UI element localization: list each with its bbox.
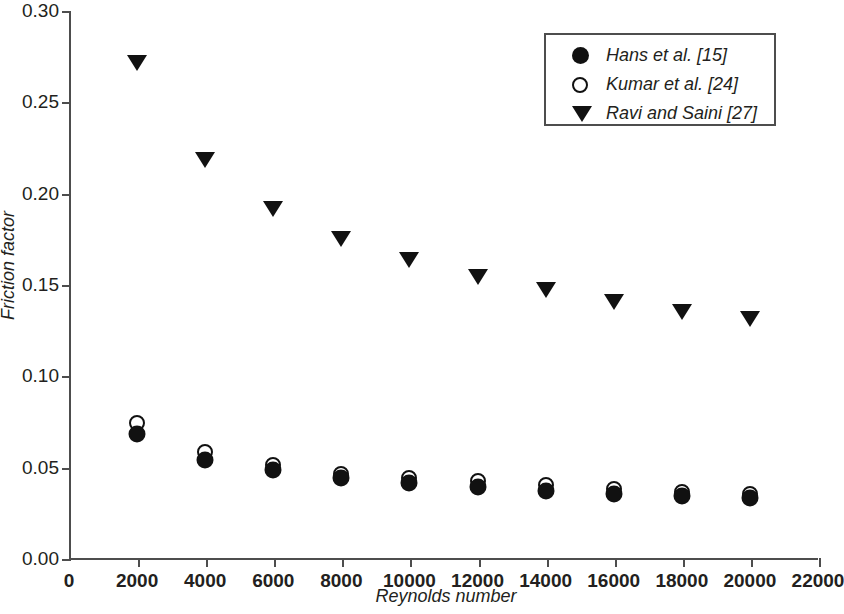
- y-axis-tick: [62, 11, 71, 13]
- x-axis-tick-label: 22000: [792, 570, 844, 592]
- legend-item: Ravi and Saini [27]: [546, 99, 774, 128]
- legend-item-label: Hans et al. [15]: [606, 45, 727, 66]
- x-axis-tick-label: 4000: [184, 570, 226, 592]
- x-axis-tick: [206, 558, 208, 567]
- data-point-marker: [127, 55, 147, 71]
- x-axis-tick-label: 10000: [383, 570, 436, 592]
- data-point-marker: [401, 475, 418, 492]
- y-axis-title: Friction factor: [0, 126, 19, 406]
- data-point-marker: [469, 478, 486, 495]
- x-axis-tick-label: 0: [64, 570, 75, 592]
- data-point-marker: [265, 462, 282, 479]
- x-axis-tick-label: 16000: [587, 570, 640, 592]
- y-axis-tick-label: 0.00: [0, 548, 59, 570]
- y-axis-tick-label: 0.20: [0, 183, 59, 205]
- data-point-marker: [604, 294, 624, 310]
- y-axis-tick: [62, 468, 71, 470]
- legend: Hans et al. [15]Kumar et al. [24]Ravi an…: [544, 33, 776, 126]
- y-axis-tick-label: 0.30: [0, 0, 59, 22]
- data-point-marker: [129, 425, 146, 442]
- x-axis-tick: [274, 558, 276, 567]
- data-point-marker: [197, 451, 214, 468]
- y-axis-tick: [62, 285, 71, 287]
- legend-item: Hans et al. [15]: [546, 41, 774, 70]
- data-point-marker: [536, 282, 556, 298]
- x-axis-tick: [751, 558, 753, 567]
- data-point-marker: [399, 252, 419, 268]
- x-axis-tick-label: 12000: [451, 570, 504, 592]
- data-point-marker: [195, 152, 215, 168]
- x-axis-tick-label: 20000: [723, 570, 776, 592]
- data-point-marker: [673, 488, 690, 505]
- x-axis-tick-label: 18000: [655, 570, 708, 592]
- x-axis-tick: [138, 558, 140, 567]
- data-point-marker: [605, 486, 622, 503]
- x-axis-tick: [410, 558, 412, 567]
- x-axis-tick: [615, 558, 617, 567]
- data-point-marker: [468, 269, 488, 285]
- y-axis-tick-label: 0.05: [0, 457, 59, 479]
- x-axis-tick: [683, 558, 685, 567]
- data-point-marker: [537, 482, 554, 499]
- x-axis-tick-label: 2000: [116, 570, 158, 592]
- y-axis-tick-label: 0.15: [0, 274, 59, 296]
- data-point-marker: [263, 201, 283, 217]
- friction-factor-chart: Friction factor Reynolds number Hans et …: [0, 0, 844, 614]
- legend-marker-icon: [572, 47, 606, 64]
- y-axis-tick: [62, 559, 71, 561]
- legend-item-label: Kumar et al. [24]: [606, 74, 738, 95]
- x-axis-tick-label: 14000: [519, 570, 572, 592]
- data-point-marker: [741, 489, 758, 506]
- x-axis-tick-label: 8000: [320, 570, 362, 592]
- x-axis-tick: [547, 558, 549, 567]
- y-axis-tick: [62, 376, 71, 378]
- y-axis-tick: [62, 194, 71, 196]
- x-axis-tick-label: 6000: [252, 570, 294, 592]
- y-axis-tick-label: 0.10: [0, 365, 59, 387]
- x-axis-tick: [342, 558, 344, 567]
- y-axis-tick-label: 0.25: [0, 91, 59, 113]
- data-point-marker: [672, 304, 692, 320]
- y-axis-tick: [62, 102, 71, 104]
- data-point-marker: [331, 231, 351, 247]
- x-axis-tick: [479, 558, 481, 567]
- data-point-marker: [333, 469, 350, 486]
- data-point-marker: [740, 311, 760, 327]
- legend-item-label: Ravi and Saini [27]: [606, 103, 757, 124]
- legend-marker-icon: [572, 106, 606, 122]
- x-axis-tick: [819, 558, 821, 567]
- legend-item: Kumar et al. [24]: [546, 70, 774, 99]
- legend-marker-icon: [572, 77, 606, 93]
